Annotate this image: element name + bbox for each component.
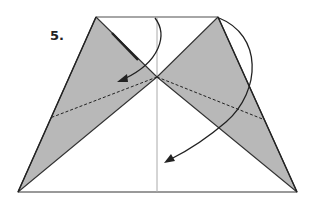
step-number-label: 5. [50,28,64,43]
origami-diagram: 5. [0,0,312,201]
diagram-canvas [0,0,312,201]
